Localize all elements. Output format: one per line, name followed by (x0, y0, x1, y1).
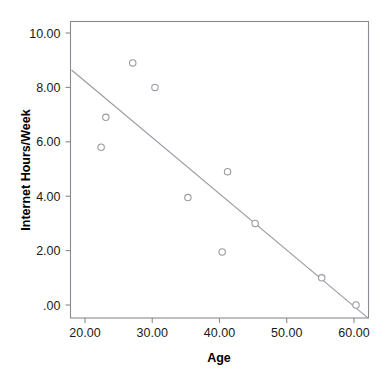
x-tick-label: 60.00 (338, 326, 369, 340)
y-tick-label: 6.00 (36, 135, 60, 149)
x-tick-label: 50.00 (271, 326, 302, 340)
data-point-marker (103, 114, 109, 120)
data-point-marker (98, 144, 104, 150)
x-axis-title: Age (207, 351, 231, 365)
data-point-marker (252, 220, 258, 226)
y-tick-label: .00 (43, 299, 60, 313)
y-tick-label: 8.00 (36, 81, 60, 95)
y-tick-label: 10.00 (29, 27, 60, 41)
chart-background (0, 0, 385, 377)
data-point-marker (152, 84, 158, 90)
y-tick-label: 2.00 (36, 244, 60, 258)
x-tick-label: 30.00 (137, 326, 168, 340)
chart-canvas: .002.004.006.008.0010.00 20.0030.0040.00… (0, 0, 385, 377)
x-tick-label: 40.00 (204, 326, 235, 340)
data-point-marker (219, 249, 225, 255)
y-tick-label: 4.00 (36, 190, 60, 204)
data-point-marker (224, 169, 230, 175)
x-tick-label: 20.00 (69, 326, 100, 340)
data-point-marker (185, 194, 191, 200)
y-axis-title: Internet Hours/Week (19, 109, 33, 230)
data-point-marker (353, 302, 359, 308)
data-point-marker (130, 60, 136, 66)
scatter-plot-figure: .002.004.006.008.0010.00 20.0030.0040.00… (0, 0, 385, 377)
data-point-marker (319, 275, 325, 281)
